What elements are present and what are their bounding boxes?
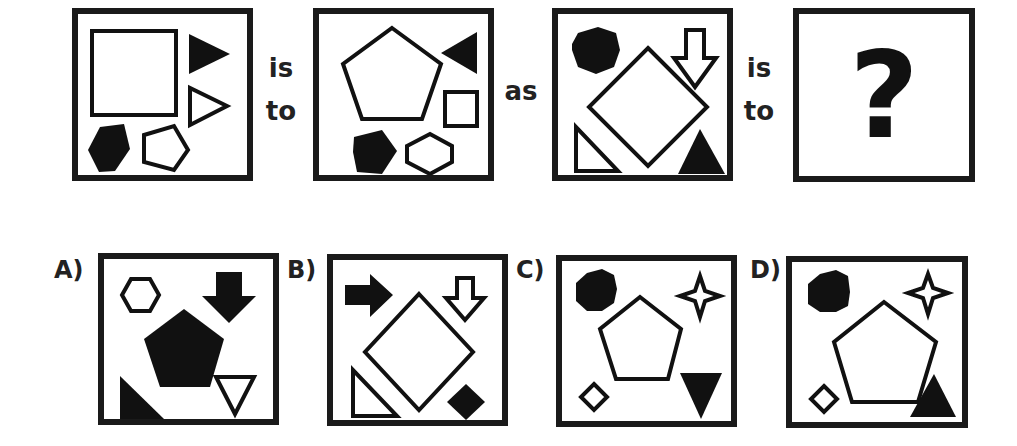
connector-to-1: to <box>263 98 299 124</box>
panel-1-shapes <box>78 14 247 175</box>
option-a-shapes <box>104 259 273 419</box>
option-c[interactable] <box>556 255 737 427</box>
filled-triangle-right-icon <box>189 34 230 74</box>
option-a[interactable] <box>98 253 279 425</box>
filled-pentagon-icon <box>88 124 130 172</box>
filled-triangle-up-icon <box>910 374 956 417</box>
outlined-triangle-down-icon <box>216 377 254 414</box>
option-d-shapes <box>792 262 962 422</box>
connector-to-2: to <box>741 98 777 124</box>
small-square-outline-icon <box>445 92 477 126</box>
small-outlined-diamond-icon <box>581 384 607 410</box>
filled-right-arrow-icon <box>345 274 393 317</box>
option-c-shapes <box>562 261 731 421</box>
large-pentagon-outline-icon <box>834 302 936 402</box>
connector-as: as <box>501 78 541 104</box>
outlined-right-triangle-icon <box>576 127 618 171</box>
outlined-down-arrow-icon <box>446 278 484 320</box>
outlined-pentagon-icon <box>144 126 188 170</box>
large-square-outline-icon <box>92 31 176 115</box>
filled-right-triangle-icon <box>120 376 164 419</box>
filled-hexagon-icon <box>572 27 620 74</box>
analogy-panel-1 <box>72 8 253 181</box>
option-b-label[interactable]: B) <box>287 258 316 282</box>
outlined-four-point-star-icon <box>908 274 948 314</box>
filled-triangle-down-icon <box>680 373 722 419</box>
large-filled-pentagon-icon <box>144 309 224 387</box>
filled-down-arrow-icon <box>202 272 256 323</box>
large-pentagon-outline-icon <box>343 28 441 119</box>
option-c-label[interactable]: C) <box>516 258 545 282</box>
panel-3-shapes <box>558 14 727 175</box>
option-d-label[interactable]: D) <box>750 258 781 282</box>
panel-2-shapes <box>319 14 488 175</box>
small-outlined-diamond-icon <box>811 386 837 412</box>
option-b-shapes <box>333 260 502 420</box>
connector-is-1: is <box>263 55 299 81</box>
outlined-pentagon-icon <box>600 297 681 379</box>
filled-triangle-left-icon <box>441 32 477 74</box>
connector-is-2: is <box>741 55 777 81</box>
filled-pentagon-icon <box>353 130 397 174</box>
option-d[interactable] <box>786 256 968 428</box>
option-b[interactable] <box>327 254 508 426</box>
outlined-hexagon-icon <box>407 134 452 174</box>
small-filled-diamond-icon <box>447 384 485 420</box>
analogy-panel-2 <box>313 8 494 181</box>
outlined-triangle-right-icon <box>190 88 227 125</box>
outlined-hexagon-icon <box>122 279 159 311</box>
option-a-label[interactable]: A) <box>54 258 84 282</box>
analogy-panel-4-unknown: ? <box>793 8 975 182</box>
filled-hexagon-icon <box>576 269 617 311</box>
filled-triangle-up-icon <box>678 129 725 174</box>
outlined-four-point-star-icon <box>680 276 720 317</box>
analogy-panel-3 <box>552 8 733 181</box>
question-mark: ? <box>799 14 969 176</box>
filled-hexagon-icon <box>808 270 850 312</box>
